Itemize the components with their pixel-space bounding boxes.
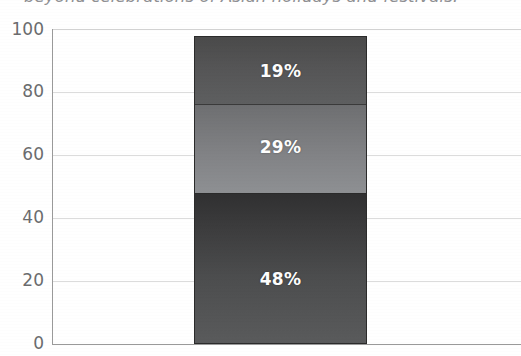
bar-segment-middle: 29% bbox=[195, 104, 366, 193]
y-axis-line bbox=[52, 29, 53, 345]
bar-segment-bottom-label: 48% bbox=[260, 269, 302, 289]
bar-segment-top-label: 19% bbox=[260, 61, 302, 81]
gridline-100 bbox=[52, 29, 521, 30]
bar-stack: 19% 29% 48% bbox=[194, 36, 367, 344]
bar-segment-bottom: 48% bbox=[195, 193, 366, 344]
stacked-bar-chart: 100 80 60 40 20 0 19% 29% 48% bbox=[0, 0, 521, 356]
y-tick-label-40: 40 bbox=[0, 209, 44, 226]
bar-segment-middle-label: 29% bbox=[260, 137, 302, 157]
y-tick-label-100: 100 bbox=[0, 21, 44, 38]
y-tick-label-0: 0 bbox=[0, 335, 44, 352]
y-tick-label-60: 60 bbox=[0, 146, 44, 163]
y-tick-label-20: 20 bbox=[0, 272, 44, 289]
axis-baseline bbox=[52, 344, 521, 345]
y-tick-label-80: 80 bbox=[0, 83, 44, 100]
bar-segment-top: 19% bbox=[195, 37, 366, 104]
